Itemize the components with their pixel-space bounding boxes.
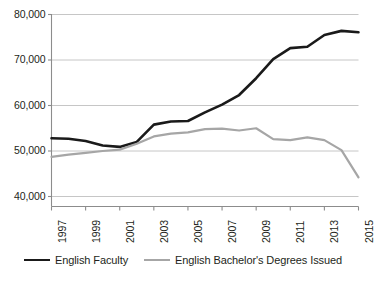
series-line-1: [52, 128, 359, 177]
legend-item-english-faculty: English Faculty: [24, 254, 128, 266]
x-axis-tick-label: 2003: [158, 220, 170, 243]
legend-item-english-bachelors-degrees-issued: English Bachelor's Degrees Issued: [144, 254, 342, 266]
data-series-group: [52, 31, 359, 178]
x-axis-tick-label: 2011: [294, 220, 306, 242]
y-axis-tick-label: 80,000: [14, 8, 46, 20]
legend-line-swatch-icon: [144, 259, 170, 261]
x-axis-tick-label: 1997: [56, 220, 68, 243]
x-axis-tick-label: 2007: [226, 220, 238, 243]
x-axis-ticks: [52, 207, 359, 211]
y-axis-tick-label: 50,000: [14, 144, 46, 156]
legend-label: English Bachelor's Degrees Issued: [175, 254, 342, 266]
x-axis-tick-label: 2009: [260, 220, 272, 243]
x-axis-tick-label: 2015: [363, 220, 375, 243]
x-axis-tick-label: 1999: [90, 220, 102, 243]
x-axis-tick-label: 2005: [192, 220, 204, 243]
legend-label: English Faculty: [55, 254, 128, 266]
legend-line-swatch-icon: [24, 259, 50, 261]
y-axis-tick-label: 60,000: [14, 99, 46, 111]
y-axis-tick-label: 40,000: [14, 190, 46, 202]
chart-legend: English Faculty English Bachelor's Degre…: [0, 254, 366, 266]
x-axis-tick-label: 2001: [124, 220, 136, 243]
y-axis-tick-label: 70,000: [14, 53, 46, 65]
x-axis-tick-label: 2013: [328, 220, 340, 243]
